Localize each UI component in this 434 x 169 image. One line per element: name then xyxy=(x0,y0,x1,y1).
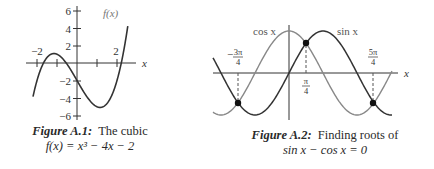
sin-label: sin x xyxy=(337,25,359,37)
svg-text:−: − xyxy=(227,48,233,60)
intersection-point xyxy=(303,40,309,46)
figure-a2-caption: Figure A.2: Finding roots of sin x − cos… xyxy=(225,128,425,158)
svg-text:π: π xyxy=(304,76,309,86)
svg-text:5π: 5π xyxy=(369,47,378,57)
intersection-point xyxy=(370,100,376,106)
caption-label: Figure A.2: xyxy=(252,128,312,142)
label-pi-4: π 4 xyxy=(302,76,310,96)
svg-text:4: 4 xyxy=(304,86,309,96)
caption-equation: f(x) = x³ − 4x − 2 xyxy=(10,139,170,154)
figure-a1-caption: Figure A.1: The cubic f(x) = x³ − 4x − 2 xyxy=(10,124,170,154)
svg-text:4: 4 xyxy=(371,57,376,67)
caption-text: The cubic xyxy=(98,124,148,138)
cos-label: cos x xyxy=(253,25,276,37)
caption-text: Finding roots of xyxy=(318,128,399,142)
sin-cos-chart: x cos x sin x − 3π 4 π 4 5π 4 xyxy=(0,0,434,125)
x-axis-label: x xyxy=(403,67,409,79)
caption-label: Figure A.1: xyxy=(32,124,92,138)
caption-equation: sin x − cos x = 0 xyxy=(225,143,425,158)
label-5pi-4: 5π 4 xyxy=(368,47,378,67)
svg-text:4: 4 xyxy=(236,57,241,67)
svg-text:3π: 3π xyxy=(234,47,243,57)
intersection-point xyxy=(235,100,241,106)
label-neg-3pi-4: − 3π 4 xyxy=(227,47,243,67)
